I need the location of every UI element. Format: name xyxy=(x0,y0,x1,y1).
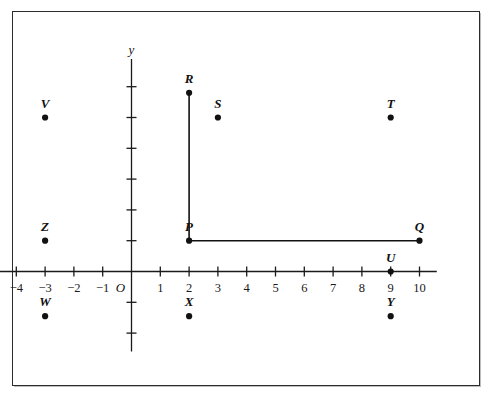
point-label-x: X xyxy=(185,294,194,310)
plot-canvas xyxy=(0,0,493,405)
point-label-z: Z xyxy=(41,219,49,235)
segments-layer xyxy=(189,93,419,241)
plotted-point-z xyxy=(42,238,48,244)
plotted-point-p xyxy=(186,238,192,244)
plotted-point-r xyxy=(186,90,192,96)
x-axis-tick-label: 7 xyxy=(330,281,336,296)
plotted-point-u xyxy=(388,268,394,274)
point-label-q: Q xyxy=(415,219,424,235)
plotted-point-x xyxy=(186,313,192,319)
point-label-w: W xyxy=(39,294,51,310)
plotted-point-t xyxy=(388,114,394,120)
point-label-r: R xyxy=(185,71,194,87)
plotted-point-w xyxy=(42,313,48,319)
point-label-t: T xyxy=(387,96,395,112)
plotted-point-v xyxy=(42,114,48,120)
plotted-point-q xyxy=(416,238,422,244)
y-axis-name: y xyxy=(129,42,135,58)
x-axis-tick-label: 6 xyxy=(301,281,307,296)
point-label-s: S xyxy=(214,96,221,112)
plotted-point-y xyxy=(388,313,394,319)
x-axis-tick-label: 10 xyxy=(413,281,426,296)
x-axis-tick-label: 4 xyxy=(244,281,250,296)
coordinate-plane-figure: −4−3−2−112345678910yOVZWRSPXTQUY xyxy=(0,0,493,405)
x-axis-tick-label: −4 xyxy=(10,281,23,296)
plotted-point-s xyxy=(215,114,221,120)
x-axis-tick-label: 8 xyxy=(359,281,365,296)
x-axis-tick-label: 1 xyxy=(157,281,163,296)
x-axis-tick-label: −1 xyxy=(96,281,109,296)
point-label-p: P xyxy=(185,219,193,235)
point-label-v: V xyxy=(41,96,50,112)
x-axis-tick-label: 5 xyxy=(272,281,278,296)
origin-label: O xyxy=(116,280,125,296)
x-axis-tick-label: 3 xyxy=(215,281,221,296)
point-label-u: U xyxy=(386,250,395,266)
x-axis-tick-label: −2 xyxy=(67,281,80,296)
point-label-y: Y xyxy=(387,294,395,310)
